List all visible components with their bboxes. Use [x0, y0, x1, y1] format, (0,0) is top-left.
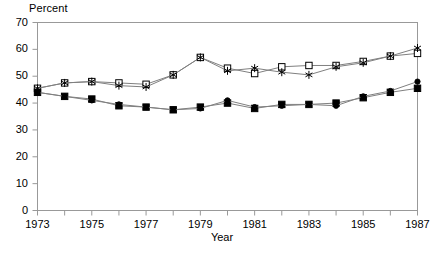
series-star-series [34, 44, 421, 92]
x-axis-tick-label: 1973 [15, 219, 61, 230]
y-axis-tick-label: 30 [0, 124, 28, 135]
data-point-filled-circle [361, 94, 366, 99]
plot-frame [38, 23, 418, 211]
data-point-filled-circle [252, 105, 257, 110]
y-axis-tick-label: 40 [0, 97, 28, 108]
x-axis-tick-label: 1983 [286, 219, 332, 230]
x-axis-tick-label: 1987 [395, 219, 441, 230]
data-point-filled-circle [279, 103, 284, 108]
data-point-filled-circle [89, 98, 94, 103]
data-point-filled-circle [116, 102, 121, 107]
x-axis-tick-label: 1977 [123, 219, 169, 230]
x-axis-tick-label: 1985 [340, 219, 386, 230]
data-point-filled-circle [225, 98, 230, 103]
data-point-filled-square [414, 85, 420, 91]
y-axis-tick-label: 20 [0, 151, 28, 162]
data-point-filled-circle [171, 107, 176, 112]
data-point-filled-circle [306, 102, 311, 107]
data-point-filled-circle [388, 88, 393, 93]
y-axis-tick-label: 0 [0, 205, 28, 216]
x-axis-tick-label: 1981 [232, 219, 278, 230]
data-point-filled-circle [35, 90, 40, 95]
line-chart-canvas [0, 0, 444, 253]
y-axis-tick-label: 70 [0, 17, 28, 28]
chart-figure: Percent Year 010203040506070197319751977… [0, 0, 444, 253]
data-point-filled-circle [198, 106, 203, 111]
x-axis-tick-label: 1979 [177, 219, 223, 230]
data-point-filled-circle [333, 103, 338, 108]
y-axis-tick-label: 50 [0, 70, 28, 81]
x-axis-title: Year [0, 231, 444, 243]
y-axis-tick-label: 10 [0, 178, 28, 189]
data-point-open-square [306, 62, 312, 68]
data-point-filled-circle [62, 94, 67, 99]
data-point-filled-circle [415, 79, 420, 84]
y-axis-tick-label: 60 [0, 43, 28, 54]
x-axis-tick-label: 1975 [69, 219, 115, 230]
data-point-filled-circle [143, 105, 148, 110]
